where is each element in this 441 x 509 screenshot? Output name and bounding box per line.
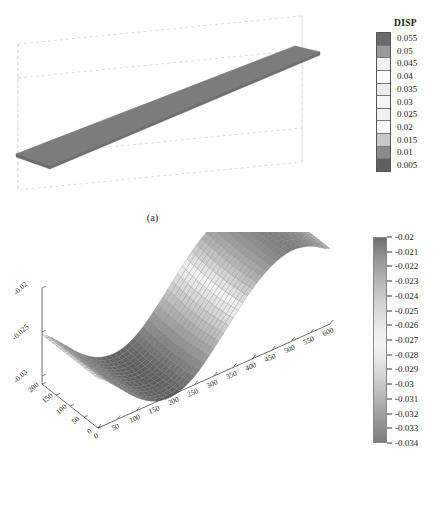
colorbar-tick: -0.034 [387, 439, 418, 448]
colorbar-tick-label: -0.02 [395, 233, 414, 242]
colorbar-tick-dash [387, 310, 392, 311]
colorbar-tick-dash [387, 369, 392, 370]
colorbar-tick-dash [387, 428, 392, 429]
legend-tick-label: 0.015 [397, 136, 417, 145]
colorbar-tick: -0.024 [387, 291, 418, 300]
legend-title-disp: DISP [394, 18, 440, 28]
colorbar-tick: -0.031 [387, 394, 418, 403]
colorbar-tick: -0.03 [387, 380, 414, 389]
colorbar-tick: -0.022 [387, 262, 418, 271]
z-tick-mark [42, 374, 46, 376]
legend-tick-label: 0.055 [397, 34, 417, 43]
colorbar-tick: -0.032 [387, 409, 418, 418]
legend-swatch [377, 58, 390, 71]
legend-swatch [377, 96, 390, 109]
x-tick-label: 50 [110, 421, 121, 432]
panel-b-mesh-surface [42, 232, 330, 401]
colorbar-tick: -0.023 [387, 277, 418, 286]
colorbar-tick: -0.02 [387, 233, 414, 242]
y-tick-label: 50 [70, 414, 82, 426]
panel-a-legend: DISP 0.055 0.05 [376, 18, 440, 172]
colorbar-tick-label: -0.022 [395, 262, 418, 271]
colorbar-tick-dash [387, 354, 392, 355]
colorbar-tick: -0.028 [387, 350, 418, 359]
colorbar-tick-label: -0.029 [395, 365, 418, 374]
legend-tick-label: 0.025 [397, 110, 417, 119]
panel-a: DISP 0.055 0.05 [0, 0, 441, 232]
y-tick-mark [56, 394, 60, 396]
colorbar-tick-label: -0.021 [395, 247, 418, 256]
z-tick-label: -0.02 [12, 279, 30, 296]
figure-container: DISP 0.055 0.05 [0, 0, 441, 509]
colorbar-tick-label: -0.033 [395, 424, 418, 433]
z-tick-label: -0.025 [10, 322, 31, 342]
colorbar-tick-label: -0.03 [395, 380, 414, 389]
panel-a-caption: (a) [0, 212, 373, 223]
colorbar-tick-dash [387, 295, 392, 296]
legend-swatch [377, 147, 390, 160]
panel-a-svg [2, 6, 322, 211]
colorbar-tick: -0.033 [387, 424, 418, 433]
x-tick-label: 0 [92, 431, 99, 441]
z-tick-mark [42, 330, 46, 332]
legend-tick-label: 0.03 [397, 98, 413, 107]
legend-swatch-column [376, 32, 391, 172]
y-tick-label: 150 [40, 391, 55, 405]
z-tick-mark [42, 286, 46, 288]
colorbar-gradient [373, 237, 387, 443]
legend-swatch [377, 71, 390, 84]
y-tick-label: 200 [26, 380, 41, 394]
colorbar-tick-label: -0.025 [395, 306, 418, 315]
colorbar-tick-dash [387, 443, 392, 444]
legend-swatch [377, 159, 390, 171]
legend-swatch [377, 134, 390, 147]
panel-a-surface-plot [2, 6, 322, 211]
legend-tick-label: 0.04 [397, 72, 413, 81]
panel-b-legend: -0.02-0.021-0.022-0.023-0.024-0.025-0.02… [373, 237, 387, 443]
colorbar-tick: -0.021 [387, 247, 418, 256]
colorbar-tick-label: -0.023 [395, 277, 418, 286]
y-tick-mark [70, 405, 74, 407]
y-tick-mark [84, 416, 88, 418]
colorbar-tick-label: -0.031 [395, 394, 418, 403]
legend-tick-label: 0.01 [397, 148, 413, 157]
colorbar-tick-dash [387, 266, 392, 267]
y-tick-label: 100 [54, 402, 69, 416]
colorbar-tick-label: -0.027 [395, 336, 418, 345]
colorbar-tick-dash [387, 251, 392, 252]
legend-tick-label: 0.045 [397, 59, 417, 68]
legend-swatch [377, 84, 390, 97]
legend-tick-label: 0.035 [397, 85, 417, 94]
legend-tick-label: 0.005 [397, 161, 417, 170]
panel-a-plate-surface [16, 46, 320, 169]
colorbar-tick-dash [387, 237, 392, 238]
legend-tick-label: 0.05 [397, 47, 413, 56]
colorbar-tick-dash [387, 384, 392, 385]
legend-swatch [377, 109, 390, 122]
colorbar-tick-dash [387, 398, 392, 399]
panel-b-z-ticks: -0.02-0.025-0.03 [10, 279, 46, 384]
legend-tick-label: 0.02 [397, 123, 413, 132]
legend-swatch [377, 46, 390, 59]
colorbar-tick: -0.029 [387, 365, 418, 374]
colorbar-tick-label: -0.024 [395, 291, 418, 300]
colorbar-tick: -0.027 [387, 336, 418, 345]
colorbar-tick: -0.025 [387, 306, 418, 315]
colorbar-tick-label: -0.028 [395, 350, 418, 359]
colorbar-tick-dash [387, 325, 392, 326]
y-tick-mark [42, 383, 46, 385]
colorbar-tick-dash [387, 413, 392, 414]
colorbar-tick: -0.026 [387, 321, 418, 330]
legend-body: 0.055 0.05 0.045 0.04 0.035 0.03 0.025 0… [376, 32, 440, 172]
z-tick-label: -0.03 [12, 367, 30, 384]
panel-b-svg: 050100150200250300350400450500550600 050… [0, 232, 355, 482]
legend-swatch [377, 121, 390, 134]
colorbar-tick-label: -0.026 [395, 321, 418, 330]
colorbar-tick-dash [387, 340, 392, 341]
colorbar-tick-dash [387, 281, 392, 282]
x-tick-mark [330, 320, 333, 324]
colorbar-tick-label: -0.034 [395, 439, 418, 448]
panel-b-surface-plot: 050100150200250300350400450500550600 050… [0, 232, 355, 482]
legend-swatch [377, 33, 390, 46]
panel-b-y-ticks: 050100150200 [26, 380, 102, 436]
